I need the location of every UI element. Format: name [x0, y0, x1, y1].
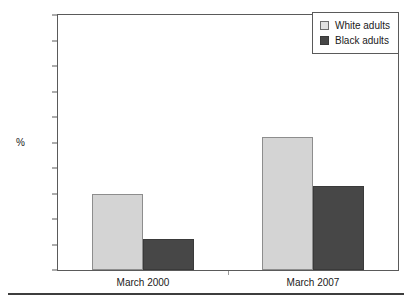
legend-label-white-adults: White adults: [335, 20, 390, 31]
bar-white-adults: [262, 137, 313, 270]
bar-black-adults: [313, 186, 364, 270]
bar-white-adults: [92, 194, 143, 271]
bar-black-adults: [143, 239, 194, 270]
bar-group: [92, 15, 194, 270]
x-tick-label: March 2000: [117, 277, 170, 288]
y-axis: % 0102030405060708090100: [0, 0, 57, 303]
footer-divider: [8, 293, 404, 295]
chart-legend: White adults Black adults: [312, 12, 399, 54]
legend-item-black-adults: Black adults: [320, 33, 390, 48]
dark-swatch-icon: [320, 36, 329, 45]
light-swatch-icon: [320, 21, 329, 30]
x-tick-label: March 2007: [287, 277, 340, 288]
x-tick-mark: [228, 271, 229, 275]
legend-label-black-adults: Black adults: [335, 35, 389, 46]
bar-chart-figure: % 0102030405060708090100 White adults Bl…: [0, 0, 411, 303]
legend-item-white-adults: White adults: [320, 18, 390, 33]
y-axis-title: %: [16, 138, 25, 148]
